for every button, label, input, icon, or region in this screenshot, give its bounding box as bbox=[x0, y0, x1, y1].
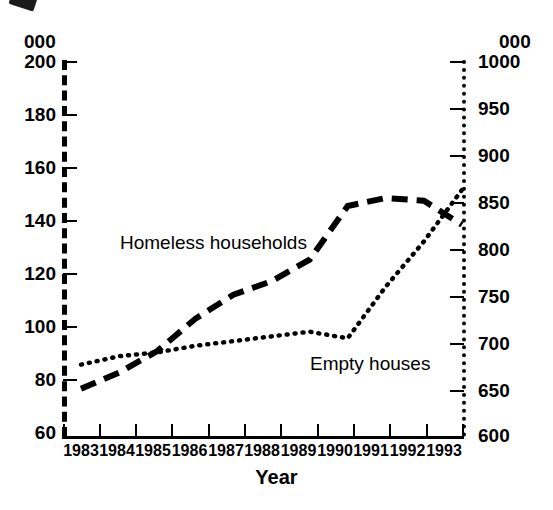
series-annotation-homeless-households: Homeless households bbox=[120, 232, 307, 254]
series-line-empty-houses bbox=[81, 190, 462, 365]
series-annotation-empty-houses: Empty houses bbox=[310, 353, 430, 375]
plot-area bbox=[0, 0, 553, 510]
chart-figure: 000 000 200 180 160 140 120 100 80 60 10… bbox=[0, 0, 553, 510]
